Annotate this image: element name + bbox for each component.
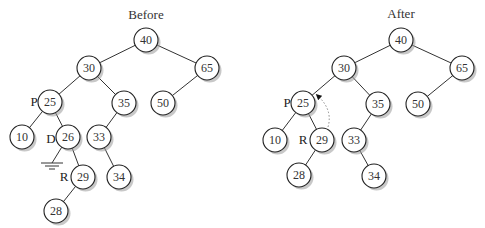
pointer-label-d: D (46, 131, 55, 146)
node-value: 29 (316, 133, 328, 147)
node-value: 29 (77, 170, 89, 184)
node-value: 25 (297, 96, 309, 110)
tree-node-35: 35 (366, 92, 393, 119)
node-value: 65 (456, 61, 468, 75)
tree-node-40: 40 (389, 28, 416, 55)
bst-deletion-diagram: 4030652535501026332934284030652535501029… (0, 0, 485, 228)
tree-node-30: 30 (332, 56, 359, 83)
tree-node-33: 33 (342, 128, 369, 155)
tree-node-34: 34 (362, 164, 389, 191)
node-value: 65 (201, 61, 213, 75)
tree-node-65: 65 (195, 56, 222, 83)
pointer-label-p: P (30, 94, 37, 109)
before-title: Before (128, 7, 164, 22)
node-value: 10 (16, 130, 28, 144)
tree-node-28: 28 (44, 199, 71, 226)
pointer-label-r: R (60, 169, 69, 184)
after-title: After (387, 6, 415, 21)
node-value: 40 (395, 33, 407, 47)
tree-node-28: 28 (287, 163, 314, 190)
node-value: 26 (62, 130, 74, 144)
pointer-label-p: P (283, 95, 290, 110)
node-value: 50 (412, 97, 424, 111)
tree-node-10: 10 (263, 128, 290, 155)
node-value: 30 (83, 61, 95, 75)
tree-node-30: 30 (77, 56, 104, 83)
node-value: 28 (50, 204, 62, 218)
tree-node-34: 34 (107, 165, 134, 192)
node-value: 35 (372, 97, 384, 111)
node-value: 50 (157, 96, 169, 110)
node-value: 40 (140, 33, 152, 47)
tree-node-65: 65 (450, 56, 477, 83)
node-value: 30 (338, 61, 350, 75)
tree-node-26: 26 (56, 125, 83, 152)
node-value: 25 (44, 95, 56, 109)
nodes-layer: 4030652535501026332934284030652535501029… (10, 28, 477, 226)
node-value: 33 (348, 133, 360, 147)
labels-layer: BeforePDRAfterPR (30, 6, 415, 184)
node-value: 35 (118, 96, 130, 110)
node-value: 34 (368, 169, 380, 183)
node-value: 34 (113, 170, 125, 184)
node-value: 28 (293, 168, 305, 182)
node-value: 33 (93, 130, 105, 144)
tree-node-40: 40 (134, 28, 161, 55)
relink-arrow-icon (318, 96, 329, 127)
pointer-label-r: R (299, 132, 308, 147)
tree-node-10: 10 (10, 125, 37, 152)
tree-node-29: 29 (310, 128, 337, 155)
tree-node-33: 33 (87, 125, 114, 152)
node-value: 10 (269, 133, 281, 147)
